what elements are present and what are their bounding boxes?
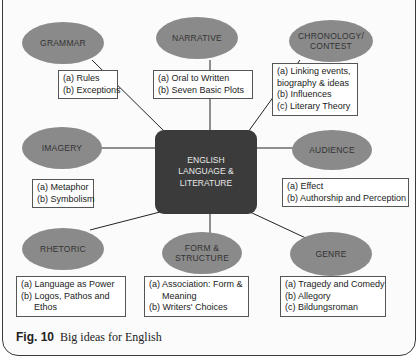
node-genre: GENRE bbox=[290, 232, 372, 276]
item: (b) Symbolism bbox=[37, 194, 89, 206]
node-narrative: NARRATIVE bbox=[156, 17, 238, 59]
item: Ethos bbox=[21, 302, 121, 314]
node-label: CHRONOLOGY/ bbox=[298, 31, 364, 41]
node-label: CONTEST bbox=[310, 41, 352, 51]
box-chronology: (a) Linking events, biography & ideas (b… bbox=[272, 63, 358, 116]
item: (b) Writers' Choices bbox=[149, 302, 244, 314]
item: (b) Allegory bbox=[285, 291, 381, 303]
item: (b) Exceptions bbox=[63, 85, 113, 97]
box-imagery: (a) Metaphor (b) Symbolism bbox=[32, 179, 94, 208]
item: (b) Authorship and Perception bbox=[287, 193, 404, 205]
node-label: NARRATIVE bbox=[172, 33, 222, 43]
figure-number: Fig. 10 bbox=[16, 330, 54, 344]
item: biography & ideas bbox=[277, 78, 353, 90]
item: (c) Bildungsroman bbox=[285, 302, 381, 314]
node-label: FORM & bbox=[185, 243, 219, 253]
box-grammar: (a) Rules (b) Exceptions bbox=[58, 70, 118, 99]
item: (b) Influences bbox=[277, 89, 353, 101]
node-label: GRAMMAR bbox=[40, 38, 86, 48]
caption-text: Big ideas for English bbox=[60, 330, 162, 344]
item: (a) Tragedy and Comedy bbox=[285, 279, 381, 291]
center-label: ENGLISH bbox=[178, 155, 233, 166]
box-genre: (a) Tragedy and Comedy (b) Allegory (c) … bbox=[280, 276, 386, 317]
box-audience: (a) Effect (b) Authorship and Perception bbox=[282, 178, 409, 207]
box-form-structure: (a) Association: Form & Meaning (b) Writ… bbox=[144, 276, 249, 317]
item: (a) Association: Form & bbox=[149, 279, 244, 291]
center-node: ENGLISHLANGUAGE &LITERATURE bbox=[155, 130, 257, 214]
node-form-structure: FORM &STRUCTURE bbox=[162, 232, 242, 274]
item: Meaning bbox=[149, 291, 244, 303]
center-label: LANGUAGE & bbox=[178, 166, 233, 177]
node-chronology: CHRONOLOGY/CONTEST bbox=[289, 20, 373, 62]
center-label: LITERATURE bbox=[178, 178, 233, 189]
node-grammar: GRAMMAR bbox=[22, 22, 104, 64]
box-narrative: (a) Oral to Written (b) Seven Basic Plot… bbox=[153, 70, 253, 99]
item: (a) Metaphor bbox=[37, 182, 89, 194]
node-label: GENRE bbox=[315, 249, 346, 259]
item: (b) Seven Basic Plots bbox=[158, 85, 248, 97]
item: (a) Language as Power bbox=[21, 279, 121, 291]
item: (a) Effect bbox=[287, 181, 404, 193]
item: (a) Rules bbox=[63, 73, 113, 85]
node-imagery: IMAGERY bbox=[22, 127, 102, 169]
item: (c) Literary Theory bbox=[277, 101, 353, 113]
item: (a) Linking events, bbox=[277, 66, 353, 78]
node-label: STRUCTURE bbox=[175, 253, 229, 263]
node-label: AUDIENCE bbox=[309, 145, 355, 155]
node-label: IMAGERY bbox=[42, 143, 82, 153]
node-label: RHETORIC bbox=[40, 244, 86, 254]
figure-caption: Fig. 10 Big ideas for English bbox=[16, 330, 162, 345]
box-rhetoric: (a) Language as Power (b) Logos, Pathos … bbox=[16, 276, 126, 317]
item: (a) Oral to Written bbox=[158, 73, 248, 85]
node-rhetoric: RHETORIC bbox=[22, 228, 104, 270]
item: (b) Logos, Pathos and bbox=[21, 291, 121, 303]
node-audience: AUDIENCE bbox=[292, 130, 372, 170]
